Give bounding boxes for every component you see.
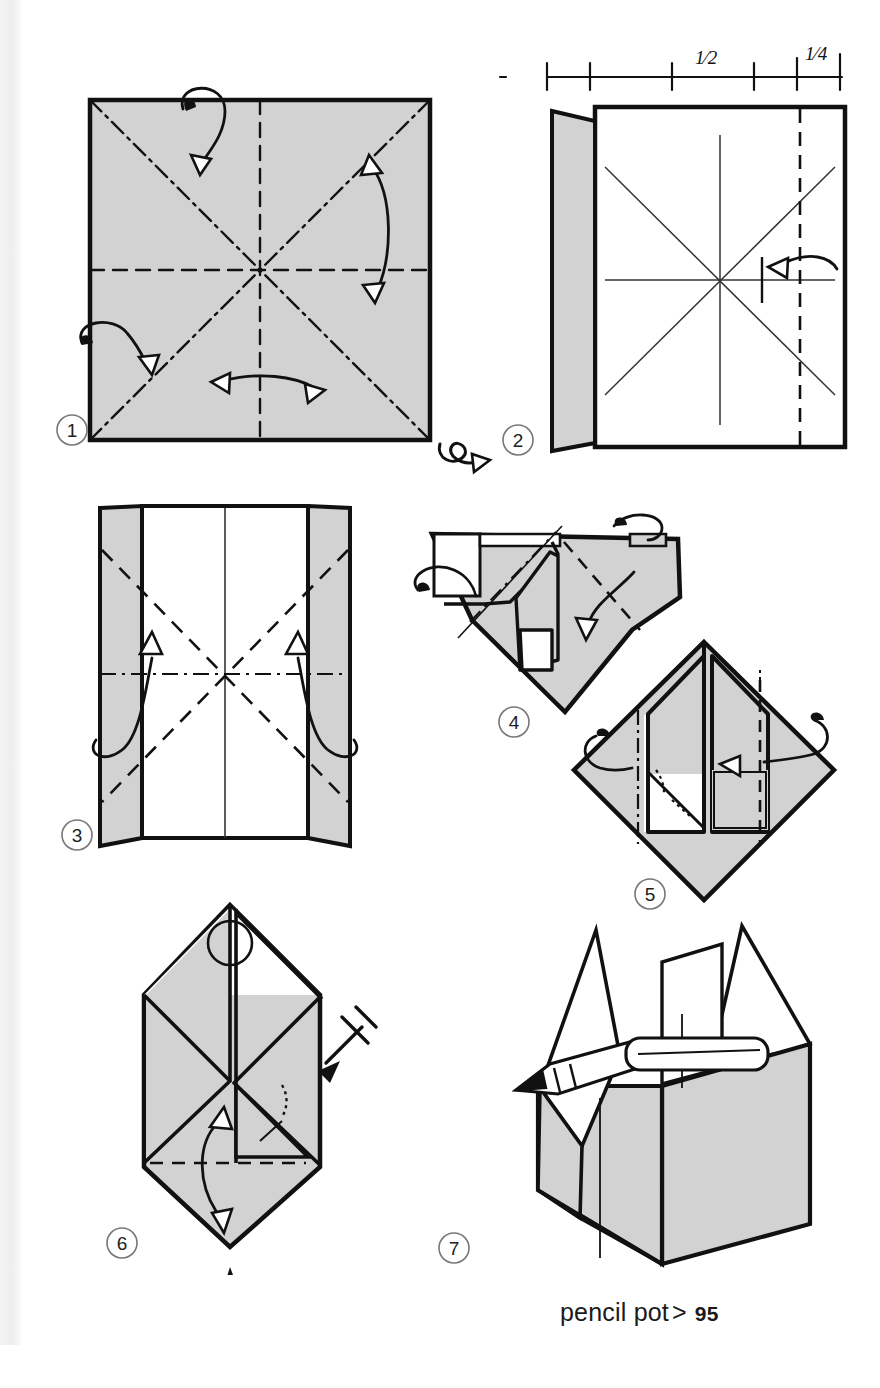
step-number-4: 4 <box>509 712 520 733</box>
step-6-figure: 6 <box>100 895 400 1275</box>
ruler-label-quarter: 1⁄4 <box>805 43 828 64</box>
step-5-figure: 5 <box>552 632 852 930</box>
left-flap <box>100 506 142 846</box>
step-number-7: 7 <box>449 1238 460 1259</box>
page-caption: pencil pot>95 <box>560 1298 860 1327</box>
ruler-label-half: 1⁄2 <box>695 47 718 68</box>
turn-over-arrowhead <box>472 454 490 472</box>
origami-diagram-page: 1⁄2 1⁄4 <box>0 0 880 1388</box>
caption-separator: > <box>672 1298 687 1326</box>
step-number-3: 3 <box>72 825 83 846</box>
inner-gray-right-outline <box>714 772 766 828</box>
step-number-6: 6 <box>117 1233 128 1254</box>
repeat-behind-arrow <box>326 1007 376 1063</box>
step-number-1: 1 <box>67 420 78 441</box>
step-3-figure: 3 <box>60 492 390 860</box>
folded-left-strip <box>552 111 595 451</box>
step-number-5: 5 <box>645 884 656 905</box>
pencil-tip-front <box>516 1070 546 1090</box>
caption-model-name: pencil pot <box>560 1298 669 1326</box>
step-7-figure: 7 <box>430 918 860 1278</box>
step-2-figure: 2 <box>500 95 870 480</box>
inner-white-1 <box>520 630 552 670</box>
book-gutter-shadow <box>0 0 22 1345</box>
pencil-back <box>626 1038 768 1070</box>
right-flap <box>308 506 350 846</box>
measurement-ruler: 1⁄2 1⁄4 <box>490 40 860 95</box>
caption-page-number: 95 <box>695 1302 719 1325</box>
step-1-figure: 1 <box>55 85 475 480</box>
push-here-triangle <box>220 1267 242 1275</box>
step-number-2: 2 <box>513 430 524 451</box>
